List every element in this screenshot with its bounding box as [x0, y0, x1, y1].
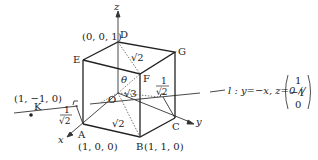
vertex-a-label: A	[77, 129, 86, 140]
frac-right: 1 √2	[156, 76, 169, 97]
vertex-d-label: D	[120, 29, 128, 40]
svg-text:0: 0	[295, 99, 301, 110]
sqrt2-top-label: √2	[131, 52, 144, 63]
svg-text:√2: √2	[59, 116, 70, 126]
vertex-e-label: E	[73, 54, 80, 65]
svg-text:−1: −1	[290, 87, 305, 98]
y-axis-label: y	[195, 116, 202, 127]
vertex-k-label: K	[34, 101, 42, 112]
point-k	[29, 113, 33, 117]
vertex-c-label: C	[172, 121, 180, 132]
svg-text:1: 1	[161, 76, 167, 86]
x-axis-label: x	[58, 134, 64, 145]
cube-diagram: z x y (0, 0, 1) D E G F O A (1, 0, 0) B …	[0, 0, 318, 160]
sqrt3-label: √3	[124, 88, 137, 99]
z-axis	[116, 11, 120, 93]
vertex-o-label: O	[108, 94, 116, 105]
theta-label: θ	[121, 74, 127, 85]
vertex-b-label: B	[136, 141, 143, 152]
z-axis-label: z	[113, 1, 120, 12]
vertex-d-coord: (0, 0, 1)	[82, 31, 122, 42]
vertex-g-label: G	[178, 46, 186, 57]
vertex-b-coord: (1, 1, 0)	[144, 141, 184, 152]
direction-vector: 1 −1 0	[286, 75, 311, 110]
vertex-f-label: F	[143, 73, 150, 84]
svg-text:1: 1	[64, 105, 70, 115]
svg-text:1: 1	[295, 75, 301, 86]
vertex-a-coord: (1, 0, 0)	[78, 141, 118, 152]
sqrt2-bottom-label: √2	[112, 118, 125, 129]
svg-text:√2: √2	[156, 87, 167, 97]
